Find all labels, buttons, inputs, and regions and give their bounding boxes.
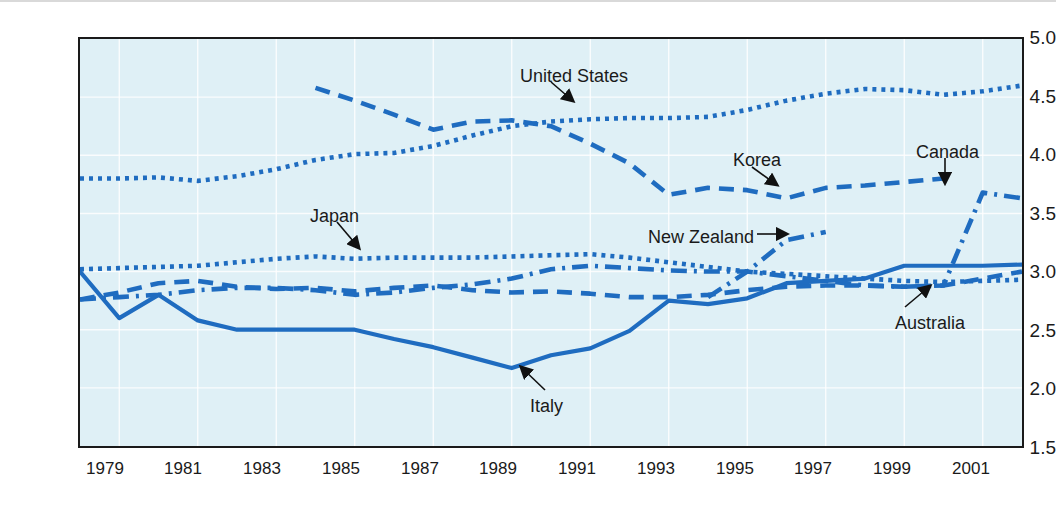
- series-label-korea: Korea: [733, 150, 781, 171]
- series-line-korea: [316, 88, 944, 198]
- x-tick-label: 1985: [306, 459, 376, 479]
- x-tick-label: 1983: [227, 459, 297, 479]
- series-line-united-states: [80, 86, 1022, 181]
- x-tick-label: 1987: [385, 459, 455, 479]
- series-label-united-states: United States: [520, 66, 628, 87]
- chart-figure: 5.0 4.5 4.0 3.5 3.0 2.5 2.0 1.5 1979 198…: [0, 0, 1056, 522]
- x-tick-label: 1981: [148, 459, 218, 479]
- top-edge-artifact: [0, 0, 1056, 2]
- plot-area: [78, 37, 1024, 448]
- x-tick-label: 1997: [778, 459, 848, 479]
- series-label-canada: Canada: [916, 142, 979, 163]
- x-tick-label: 1989: [463, 459, 533, 479]
- x-tick-label: 1999: [857, 459, 927, 479]
- series-label-australia: Australia: [895, 313, 965, 334]
- series-label-new-zealand: New Zealand: [648, 227, 754, 248]
- series-line-canada: [80, 193, 1022, 300]
- x-tick-label: 1979: [70, 459, 140, 479]
- x-tick-label: 1991: [542, 459, 612, 479]
- series-lines: [80, 39, 1022, 446]
- series-line-australia: [80, 272, 1022, 300]
- x-tick-label: 2001: [936, 459, 1006, 479]
- x-tick-label: 1993: [621, 459, 691, 479]
- series-label-japan: Japan: [310, 206, 359, 227]
- series-label-italy: Italy: [530, 396, 563, 417]
- x-tick-label: 1995: [700, 459, 770, 479]
